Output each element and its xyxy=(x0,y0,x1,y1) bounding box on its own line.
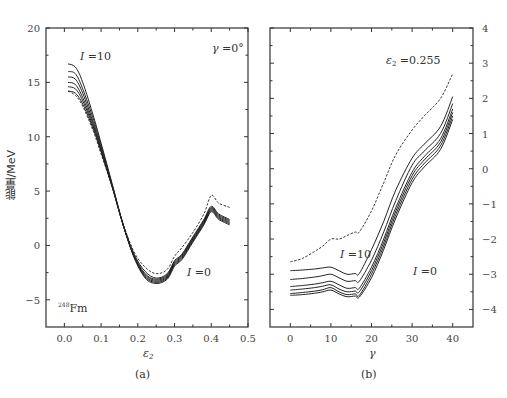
caption-a: (a) xyxy=(135,368,150,381)
x-tick-label: 20 xyxy=(365,333,378,344)
chart-figure: 0.00.10.20.30.40.5−505101520 010203040−4… xyxy=(0,0,507,398)
y-tick-label: 10 xyxy=(27,132,40,143)
y-tick-label: 2 xyxy=(482,93,488,104)
i10-annotation-a: I =10 xyxy=(79,50,111,63)
y-tick-label: 4 xyxy=(482,23,488,34)
x-tick-label: 0 xyxy=(287,333,293,344)
series-line xyxy=(290,74,452,262)
y-tick-label: −2 xyxy=(482,234,497,245)
x-axis-label-b: γ xyxy=(369,347,376,360)
series-line xyxy=(290,109,452,290)
y-tick-label: −4 xyxy=(482,304,497,315)
y-tick-label: −1 xyxy=(482,199,497,210)
y-tick-label: −5 xyxy=(25,295,40,306)
panel-b: 010203040−4−3−2−101234 xyxy=(270,23,497,344)
x-tick-label: 0.1 xyxy=(93,333,109,344)
y-tick-label: 20 xyxy=(27,23,40,34)
y-tick-label: 15 xyxy=(27,77,40,88)
y-tick-label: 5 xyxy=(34,186,40,197)
panel-a: 0.00.10.20.30.40.5−505101520 xyxy=(25,23,256,344)
plot-frame xyxy=(270,28,473,327)
i0-annotation-a: I =0 xyxy=(186,266,211,279)
x-tick-label: 0.5 xyxy=(240,333,256,344)
x-tick-label: 0.3 xyxy=(167,333,183,344)
x-axis-label-a: ε2 xyxy=(143,347,154,361)
plot-frame xyxy=(46,28,248,327)
y-tick-label: 0 xyxy=(482,164,488,175)
eps-annotation: ε2 =0.255 xyxy=(386,54,441,68)
x-tick-label: 40 xyxy=(446,333,459,344)
y-axis-label-a: 能量/MeV xyxy=(4,150,18,200)
x-tick-label: 0.0 xyxy=(56,333,72,344)
series-line xyxy=(290,104,452,283)
i0-annotation-b: I =0 xyxy=(412,265,437,278)
caption-b: (b) xyxy=(361,368,377,381)
y-tick-label: 1 xyxy=(482,129,488,140)
y-tick-label: 0 xyxy=(34,240,40,251)
y-tick-label: 3 xyxy=(482,58,488,69)
series-line xyxy=(68,72,230,283)
i10-annotation-b: I =10 xyxy=(339,248,371,261)
x-tick-label: 30 xyxy=(406,333,419,344)
x-tick-label: 10 xyxy=(325,333,338,344)
nucleus-label: 248Fm xyxy=(58,301,88,315)
series-line xyxy=(68,77,230,281)
x-tick-label: 0.4 xyxy=(203,333,219,344)
x-tick-label: 0.2 xyxy=(130,333,146,344)
y-tick-label: −3 xyxy=(482,269,497,280)
gamma-annotation: γ =0° xyxy=(212,42,244,55)
series-line xyxy=(290,97,452,276)
series-line xyxy=(68,64,230,284)
